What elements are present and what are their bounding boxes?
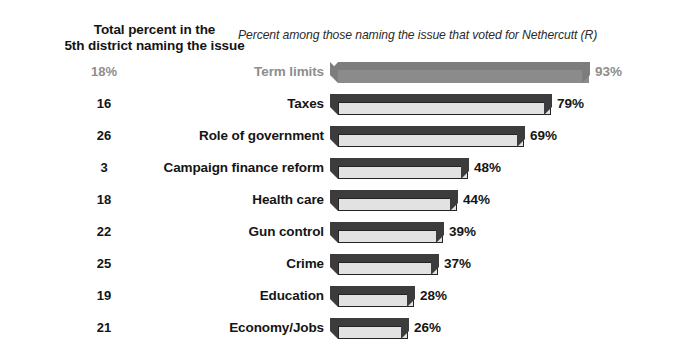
bar-3d	[330, 318, 409, 339]
bar-3d	[330, 222, 444, 243]
total-percent-value: 18	[60, 184, 148, 216]
bar-front-face	[338, 294, 414, 307]
bar-3d	[330, 94, 552, 115]
chart-row: 3Campaign finance reform48%	[0, 152, 673, 184]
bar-front-face	[338, 166, 468, 179]
bar-wrapper	[330, 184, 459, 216]
bar-value-label: 26%	[414, 312, 441, 344]
total-percent-value: 21	[60, 312, 148, 344]
bar-value-label: 39%	[449, 216, 476, 248]
bar-3d	[330, 254, 439, 275]
category-label: Health care	[252, 184, 324, 216]
category-label: Taxes	[287, 88, 324, 120]
bar-wrapper	[330, 312, 410, 344]
category-label: Education	[260, 280, 324, 312]
bar-wrapper	[330, 88, 553, 120]
bar-front-face	[338, 262, 438, 275]
bar-wrapper	[330, 120, 526, 152]
bar-wrapper	[330, 152, 470, 184]
bar-value-label: 69%	[530, 120, 557, 152]
bar-front-face	[338, 198, 457, 211]
total-percent-value: 22	[60, 216, 148, 248]
total-percent-value: 18%	[60, 56, 148, 88]
bar-wrapper	[330, 216, 445, 248]
category-label: Gun control	[249, 216, 324, 248]
chart-title: Percent among those naming the issue tha…	[238, 28, 597, 42]
bar-value-label: 93%	[595, 56, 622, 88]
category-label: Term limits	[254, 56, 324, 88]
total-percent-value: 3	[60, 152, 148, 184]
total-percent-value: 16	[60, 88, 148, 120]
bar-3d	[330, 62, 590, 83]
category-label: Crime	[286, 248, 324, 280]
bar-wrapper	[330, 248, 440, 280]
bar-value-label: 28%	[420, 280, 447, 312]
chart-row: 21Economy/Jobs26%	[0, 312, 673, 344]
category-label: Role of government	[199, 120, 324, 152]
total-percent-value: 25	[60, 248, 148, 280]
total-percent-value: 26	[60, 120, 148, 152]
bar-3d	[330, 190, 458, 211]
bar-value-label: 44%	[463, 184, 490, 216]
bar-wrapper	[330, 56, 591, 88]
category-label: Economy/Jobs	[229, 312, 324, 344]
bar-value-label: 48%	[474, 152, 501, 184]
bar-3d	[330, 126, 525, 147]
bar-front-face	[338, 70, 589, 83]
chart-row: 19Education28%	[0, 280, 673, 312]
chart-row: 22Gun control39%	[0, 216, 673, 248]
chart-row: 26Role of government69%	[0, 120, 673, 152]
chart-row: 18%Term limits93%	[0, 56, 673, 88]
total-percent-value: 19	[60, 280, 148, 312]
bar-3d	[330, 286, 415, 307]
chart-row: 25Crime37%	[0, 248, 673, 280]
bar-value-label: 37%	[444, 248, 471, 280]
bar-3d	[330, 158, 469, 179]
bar-front-face	[338, 102, 551, 115]
chart-row: 18Health care44%	[0, 184, 673, 216]
chart-root: Total percent in the 5th district naming…	[0, 0, 673, 354]
category-label: Campaign finance reform	[164, 152, 325, 184]
chart-row: 16Taxes79%	[0, 88, 673, 120]
bar-wrapper	[330, 280, 416, 312]
bar-front-face	[338, 326, 408, 339]
bar-front-face	[338, 134, 524, 147]
bar-value-label: 79%	[557, 88, 584, 120]
bar-front-face	[338, 230, 443, 243]
